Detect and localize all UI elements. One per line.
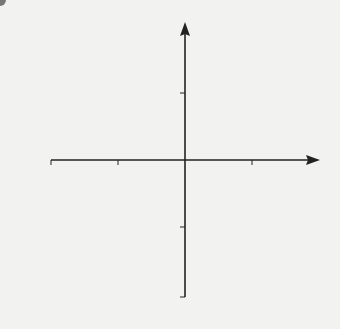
chart [0,0,340,329]
axes [51,22,320,297]
intersection-point [0,0,6,6]
